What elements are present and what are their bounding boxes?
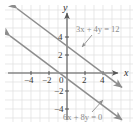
- plot-background: [5, 5, 133, 122]
- x-tick-label-4: 4: [100, 76, 105, 85]
- origin-label: 0: [59, 76, 64, 85]
- y-tick-label-neg2: −2: [54, 87, 64, 96]
- y-tick-label-4: 4: [58, 33, 63, 42]
- y-axis-label: y: [63, 3, 67, 13]
- equation-label-lower: 6x + 8y = 0: [63, 113, 102, 122]
- x-tick-label-neg2: −2: [42, 76, 52, 85]
- x-axis-label: x: [124, 68, 128, 78]
- equation-label-upper: 3x + 4y = 12: [76, 25, 120, 34]
- x-tick-label-2: 2: [82, 76, 87, 85]
- y-tick-label-2: 2: [58, 51, 63, 60]
- x-tick-label-neg4: −4: [24, 76, 34, 85]
- coordinate-graph-figure: −4 −2 2 4 0 4 2 −2 −4 x y 3x + 4y = 12 6…: [0, 0, 139, 134]
